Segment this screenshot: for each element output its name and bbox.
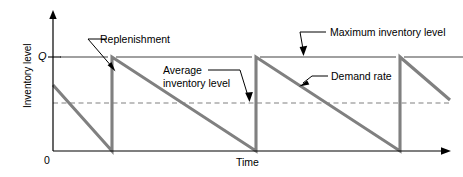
y-axis-label: Inventory level	[22, 44, 34, 108]
x-axis-label: Time	[236, 156, 259, 168]
origin-label: 0	[44, 154, 50, 166]
average-inventory-level-label: Average inventory level	[163, 64, 230, 90]
y-axis	[49, 10, 56, 151]
average-inventory-level-arrowhead	[245, 92, 253, 102]
maximum-inventory-level-label: Maximum inventory level	[330, 26, 446, 38]
demand-rate-label: Demand rate	[331, 70, 392, 82]
average-inventory-level-label-line1: Average	[163, 64, 230, 77]
inventory-level-diagram: Inventory level Q 0 Time Replenishment A…	[0, 0, 463, 177]
replenishment-label: Replenishment	[100, 33, 170, 45]
maximum-inventory-level-arrowhead	[300, 46, 308, 56]
q-tick-label: Q	[38, 50, 47, 62]
average-inventory-level-label-line2: inventory level	[163, 77, 230, 90]
